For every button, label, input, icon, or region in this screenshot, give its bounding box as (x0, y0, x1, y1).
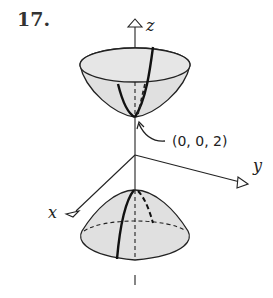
point-annotation: (0, 0, 2) (137, 122, 227, 149)
z-axis-label: z (145, 16, 155, 35)
y-axis-label: y (252, 156, 263, 175)
x-arrow-icon (66, 211, 79, 217)
vertex-point-label: (0, 0, 2) (172, 133, 227, 149)
lower-sheet (81, 190, 190, 260)
z-arrow-icon (128, 19, 142, 27)
upper-sheet (80, 47, 190, 117)
hyperboloid-two-sheets-figure: z y x (0, 0, 2) (0, 0, 273, 298)
x-axis-label: x (48, 203, 57, 222)
y-axis: y (135, 155, 263, 188)
y-arrow-icon (237, 177, 248, 188)
